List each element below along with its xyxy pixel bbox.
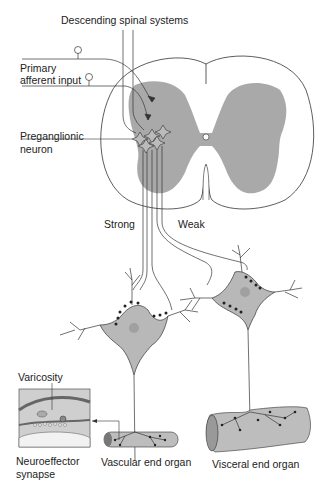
neuroeffector-synapse-inset (19, 383, 90, 447)
label-primary-afferent-line2: afferent input (20, 74, 81, 86)
label-preganglionic-line1: Preganglionic (20, 130, 84, 142)
postganglionic-neuron-weak (180, 245, 302, 420)
label-preganglionic-line2: neuron (20, 143, 53, 155)
label-neuroeffector-line1: Neuroeffector (16, 455, 79, 467)
vascular-end-organ (92, 419, 178, 447)
label-strong: Strong (104, 218, 135, 230)
label-descending-spinal-systems: Descending spinal systems (61, 14, 188, 26)
visceral-end-organ (206, 407, 311, 452)
label-neuroeffector-line2: synapse (16, 468, 55, 480)
label-visceral-end-organ: Visceral end organ (212, 458, 299, 470)
label-weak: Weak (178, 218, 205, 230)
label-vascular-end-organ: Vascular end organ (101, 456, 191, 468)
label-varicosity: Varicosity (18, 371, 63, 383)
label-primary-afferent-line1: Primary (20, 62, 56, 74)
